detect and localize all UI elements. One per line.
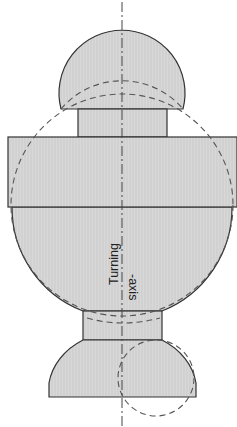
axis-label-line1: Turning — [107, 243, 121, 285]
axis-label-line2: -axis — [126, 274, 140, 300]
turning-axis-diagram: Turning -axis — [0, 0, 237, 427]
